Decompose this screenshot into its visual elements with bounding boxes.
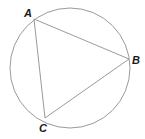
- vertex-label-c: C: [39, 122, 48, 134]
- vertex-label-b: B: [132, 54, 140, 66]
- inscribed-triangle-diagram: A B C: [0, 0, 145, 139]
- circumscribed-circle: [10, 8, 130, 128]
- vertex-label-a: A: [23, 7, 32, 19]
- triangle-abc: [34, 19, 129, 118]
